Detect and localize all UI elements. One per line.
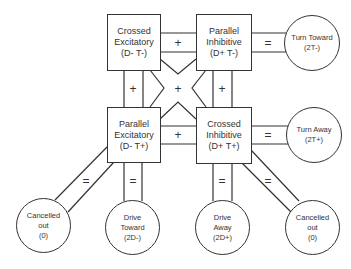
box-label-line3: (D- T+): [120, 141, 149, 152]
outcome-label-line1: Cancelled: [296, 213, 329, 223]
outcome-label-line1: Drive: [214, 213, 232, 223]
outcome-label-line1: Turn Toward: [291, 33, 332, 43]
turn-toward-circle: Turn Toward (2T-): [284, 15, 340, 71]
turn-away-circle: Turn Away (2T+): [286, 107, 342, 163]
parallel-inhibitive-box: Parallel Inhibitive (D+ T-): [196, 14, 252, 71]
outcome-label-line3: (0): [39, 231, 48, 241]
cancelled-out-right-circle: Cancelled out (0): [285, 200, 340, 255]
box-label-line1: Parallel: [209, 26, 239, 37]
box-label-line2: Inhibitive: [206, 130, 242, 141]
box-label-line2: Inhibitive: [206, 37, 242, 48]
plus-sign-top: +: [174, 37, 181, 49]
outcome-label-line2: Toward: [120, 223, 144, 233]
plus-sign-right: +: [218, 83, 225, 95]
outcome-label-line2: (2T-): [304, 43, 320, 53]
box-label-line1: Parallel: [119, 119, 149, 130]
outcome-label-line3: (0): [308, 233, 317, 243]
cancelled-out-left-circle: Cancelled out (0): [16, 198, 71, 253]
outcome-label-line1: Cancelled: [27, 211, 60, 221]
drive-away-circle: Drive Away (2D+): [195, 200, 250, 255]
crossed-excitatory-box: Crossed Excitatory (D- T-): [107, 14, 161, 71]
outcome-label-line1: Turn Away: [296, 125, 331, 135]
equals-sign-cancelled-right: =: [264, 175, 271, 187]
box-label-line3: (D+ T+): [209, 141, 240, 152]
equals-sign-cancelled-left: =: [82, 175, 89, 187]
box-label-line1: Crossed: [117, 26, 151, 37]
box-label-line1: Crossed: [207, 119, 241, 130]
box-label-line2: Excitatory: [114, 130, 154, 141]
outcome-label-line3: (2D-): [124, 233, 141, 243]
outcome-label-line2: out: [307, 223, 317, 233]
outcome-label-line1: Drive: [124, 213, 142, 223]
box-label-line3: (D- T-): [121, 48, 147, 59]
outcome-label-line2: Away: [213, 223, 231, 233]
plus-sign-left: +: [129, 83, 136, 95]
plus-sign-center: +: [174, 83, 181, 95]
crossed-inhibitive-box: Crossed Inhibitive (D+ T+): [196, 107, 252, 164]
equals-sign-turn-toward: =: [264, 37, 271, 49]
equals-sign-drive-toward: =: [129, 175, 136, 187]
outcome-label-line2: out: [38, 221, 48, 231]
parallel-excitatory-box: Parallel Excitatory (D- T+): [107, 107, 161, 163]
equals-sign-drive-away: =: [218, 175, 225, 187]
equals-sign-turn-away: =: [264, 129, 271, 141]
drive-toward-circle: Drive Toward (2D-): [105, 200, 160, 255]
outcome-label-line3: (2D+): [213, 233, 232, 243]
plus-sign-bottom: +: [174, 129, 181, 141]
box-label-line3: (D+ T-): [210, 48, 238, 59]
box-label-line2: Excitatory: [114, 37, 154, 48]
outcome-label-line2: (2T+): [305, 135, 323, 145]
